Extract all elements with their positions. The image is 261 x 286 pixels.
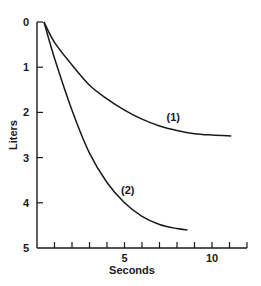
chart: 012345510SecondsLiters(1)(2) [0,0,261,286]
y-tick-label: 0 [23,16,29,28]
x-axis-title: Seconds [109,264,155,276]
y-tick-label: 3 [23,152,29,164]
y-tick-label: 5 [23,242,29,254]
y-tick-label: 1 [23,61,29,73]
x-tick-label: 10 [206,252,218,264]
y-tick-label: 2 [23,106,29,118]
x-tick-label: 5 [121,252,127,264]
y-tick-label: 4 [23,197,30,209]
y-axis-title: Liters [7,120,19,150]
series-line-2 [44,22,188,230]
series-label-2: (2) [121,184,135,196]
series-label-1: (1) [167,111,181,123]
series-line-1 [44,22,231,136]
